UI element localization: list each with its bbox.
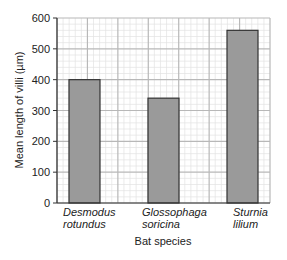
y-tick-label: 400 bbox=[32, 74, 50, 86]
x-category-label: soricina bbox=[142, 218, 180, 230]
x-category-label: lilium bbox=[233, 218, 258, 230]
x-category-labels: DesmodusrotundusGlossophagasoricinaSturn… bbox=[63, 206, 268, 230]
y-axis-label: Mean length of villi (µm) bbox=[13, 52, 25, 169]
bar-glossophaga-soricina bbox=[148, 98, 179, 203]
y-tick-label: 300 bbox=[32, 105, 50, 117]
bar-sturnia-lilium bbox=[227, 30, 258, 203]
y-tick-label: 200 bbox=[32, 135, 50, 147]
x-category-label: Sturnia bbox=[233, 206, 268, 218]
x-category-label: Desmodus bbox=[63, 206, 116, 218]
x-category-label: Glossophaga bbox=[142, 206, 207, 218]
y-tick-label: 600 bbox=[32, 12, 50, 24]
x-category-label: rotundus bbox=[63, 218, 106, 230]
bars bbox=[69, 30, 258, 203]
bar-chart: 0100200300400500600 DesmodusrotundusGlos… bbox=[0, 0, 287, 260]
bar-desmodus-rotundus bbox=[69, 80, 100, 203]
y-tick-label: 100 bbox=[32, 166, 50, 178]
y-tick-label: 0 bbox=[44, 197, 50, 209]
y-tick-label: 500 bbox=[32, 43, 50, 55]
x-axis-label: Bat species bbox=[135, 235, 192, 247]
y-tick-labels: 0100200300400500600 bbox=[32, 12, 57, 209]
